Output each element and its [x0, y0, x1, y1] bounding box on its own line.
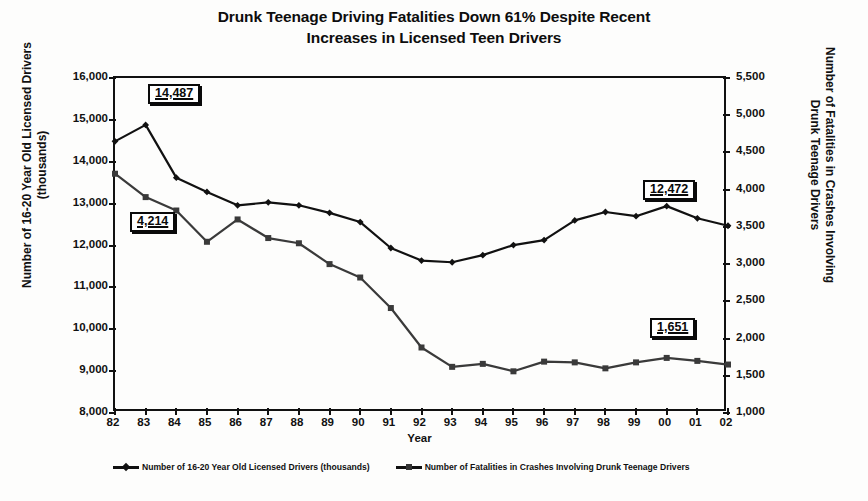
x-axis-tick [329, 408, 331, 415]
x-axis-tick-label: 01 [682, 416, 708, 428]
left-axis-tick-label: 10,000 [46, 321, 108, 333]
data-point-marker [694, 358, 700, 364]
x-axis-tick [359, 408, 361, 415]
data-point-marker [296, 240, 302, 246]
x-axis-title: Year [113, 432, 726, 444]
legend-marker-square-icon [396, 463, 422, 472]
legend-label: Number of Fatalities in Crashes Involvin… [425, 462, 690, 472]
x-axis-tick-label: 83 [131, 416, 157, 428]
right-axis-tick-label: 5,000 [736, 107, 798, 119]
chart-title-line2: Increases in Licensed Teen Drivers [0, 27, 868, 48]
right-axis-tick [723, 189, 730, 191]
data-point-marker [204, 239, 210, 245]
data-point-marker [296, 202, 303, 209]
data-point-marker [694, 215, 701, 222]
data-point-marker [143, 194, 149, 200]
right-axis-tick [723, 77, 730, 79]
right-axis-tick-label: 4,500 [736, 144, 798, 156]
right-axis-tick [723, 114, 730, 116]
right-axis-tick [723, 226, 730, 228]
left-axis-tick-label: 8,000 [46, 405, 108, 417]
right-axis-tick-label: 2,000 [736, 331, 798, 343]
right-axis-tick-label: 5,500 [736, 70, 798, 82]
x-axis-tick-label: 97 [560, 416, 586, 428]
data-point-marker [480, 361, 486, 367]
x-axis-tick-label: 87 [253, 416, 279, 428]
x-axis-tick-label: 82 [100, 416, 126, 428]
data-point-marker [633, 359, 639, 365]
data-point-marker [265, 235, 271, 241]
data-point-marker [449, 259, 456, 266]
right-axis-tick [723, 151, 730, 153]
x-axis-tick [237, 408, 239, 415]
chart-legend: Number of 16-20 Year Old Licensed Driver… [113, 462, 813, 472]
data-point-marker [663, 203, 670, 210]
data-point-marker [204, 189, 211, 196]
left-axis-tick [109, 161, 116, 163]
left-axis-tick-label: 12,000 [46, 238, 108, 250]
x-axis-tick [666, 408, 668, 415]
data-callout-label: 14,487 [148, 84, 200, 104]
data-point-marker [725, 362, 731, 368]
left-axis-tick-label: 13,000 [46, 196, 108, 208]
left-axis-tick [109, 119, 116, 121]
x-axis-tick-label: 98 [590, 416, 616, 428]
x-axis-tick-label: 99 [621, 416, 647, 428]
x-axis-tick [206, 408, 208, 415]
x-axis-tick-label: 89 [315, 416, 341, 428]
right-axis-tick-label: 1,000 [736, 405, 798, 417]
x-axis-tick [114, 408, 116, 415]
data-point-marker [419, 344, 425, 350]
x-axis-tick [421, 408, 423, 415]
x-axis-tick-label: 90 [345, 416, 371, 428]
data-point-marker [633, 213, 640, 220]
x-axis-tick-label: 02 [713, 416, 739, 428]
data-callout-label: 4,214 [130, 212, 175, 232]
data-point-marker [418, 257, 425, 264]
x-axis-tick-label: 96 [529, 416, 555, 428]
data-point-marker [388, 305, 394, 311]
left-axis-tick-labels: 8,0009,00010,00011,00012,00013,00014,000… [42, 76, 108, 411]
data-point-marker [235, 216, 241, 222]
x-axis-tick-label: 85 [192, 416, 218, 428]
data-point-marker [510, 242, 517, 249]
left-axis-tick-label: 14,000 [46, 154, 108, 166]
x-axis-tick-label: 94 [468, 416, 494, 428]
series-lines [115, 78, 728, 413]
x-axis-tick [696, 408, 698, 415]
data-callout-label: 12,472 [643, 180, 695, 200]
right-axis-tick-label: 4,000 [736, 182, 798, 194]
legend-item-0: Number of 16-20 Year Old Licensed Driver… [113, 462, 370, 472]
chart-title-line1: Drunk Teenage Driving Fatalities Down 61… [0, 6, 868, 27]
right-axis-tick-label: 3,500 [736, 219, 798, 231]
x-axis-tick [298, 408, 300, 415]
right-axis-tick [723, 300, 730, 302]
data-point-marker [664, 355, 670, 361]
x-axis-tick [175, 408, 177, 415]
x-axis-tick [267, 408, 269, 415]
x-axis-tick-label: 88 [284, 416, 310, 428]
right-axis-title: Number of Fatalities in Crashes Involvin… [807, 35, 837, 295]
data-point-marker [541, 359, 547, 365]
chart-title: Drunk Teenage Driving Fatalities Down 61… [0, 6, 868, 48]
left-axis-tick [109, 245, 116, 247]
data-point-marker [234, 202, 241, 209]
x-axis-tick-label: 93 [437, 416, 463, 428]
left-axis-tick [109, 328, 116, 330]
x-axis-tick [390, 408, 392, 415]
x-axis-tick-label: 86 [223, 416, 249, 428]
legend-item-1: Number of Fatalities in Crashes Involvin… [396, 462, 690, 472]
left-axis-tick [109, 77, 116, 79]
x-axis-tick-label: 84 [161, 416, 187, 428]
x-axis-tick [635, 408, 637, 415]
data-point-marker [265, 199, 272, 206]
data-callout-label: 1,651 [650, 318, 695, 338]
left-axis-tick [109, 370, 116, 372]
chart-container: Drunk Teenage Driving Fatalities Down 61… [0, 0, 868, 501]
right-axis-tick-labels: 1,0001,5002,0002,5003,0003,5004,0004,500… [736, 76, 802, 411]
right-axis-tick-label: 3,000 [736, 256, 798, 268]
right-axis-tick-label: 2,500 [736, 293, 798, 305]
right-axis-tick-label: 1,500 [736, 368, 798, 380]
right-axis-tick [723, 375, 730, 377]
data-point-marker [327, 261, 333, 267]
